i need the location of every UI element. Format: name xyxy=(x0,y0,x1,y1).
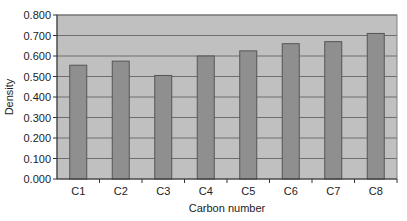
x-tick-label: C7 xyxy=(326,185,340,197)
y-tick-label: 0.200 xyxy=(23,132,51,144)
bar-chart: 0.0000.1000.2000.3000.4000.5000.6000.700… xyxy=(0,0,407,221)
x-tick-label: C8 xyxy=(369,185,383,197)
x-tick-label: C3 xyxy=(156,185,170,197)
x-tick-label: C4 xyxy=(199,185,213,197)
y-tick-label: 0.300 xyxy=(23,112,51,124)
y-axis: 0.0000.1000.2000.3000.4000.5000.6000.700… xyxy=(23,9,57,185)
y-tick-label: 0.700 xyxy=(23,30,51,42)
x-tick-label: C5 xyxy=(241,185,255,197)
bar-c2 xyxy=(112,61,129,179)
x-tick-label: C2 xyxy=(114,185,128,197)
y-tick-label: 0.600 xyxy=(23,50,51,62)
y-tick-label: 0.000 xyxy=(23,173,51,185)
x-tick-label: C1 xyxy=(71,185,85,197)
y-tick-label: 0.400 xyxy=(23,91,51,103)
bar-c6 xyxy=(282,44,299,179)
y-tick-label: 0.100 xyxy=(23,153,51,165)
y-tick-label: 0.800 xyxy=(23,9,51,21)
x-axis-label: Carbon number xyxy=(189,202,266,214)
bar-c8 xyxy=(367,33,384,179)
y-axis-label: Density xyxy=(3,78,15,115)
bar-c7 xyxy=(325,42,342,179)
bar-c4 xyxy=(197,56,214,179)
y-tick-label: 0.500 xyxy=(23,71,51,83)
bar-c3 xyxy=(155,75,172,179)
x-tick-label: C6 xyxy=(284,185,298,197)
x-axis: C1C2C3C4C5C6C7C8 xyxy=(57,179,397,197)
bar-c1 xyxy=(70,65,87,179)
bar-c5 xyxy=(240,51,257,179)
